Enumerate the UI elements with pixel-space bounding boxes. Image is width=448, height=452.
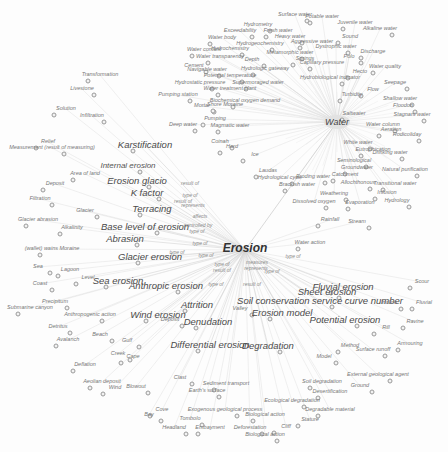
node-label[interactable]: Eroding water	[296, 174, 330, 180]
node-label[interactable]: Anthropic erosion	[129, 281, 203, 291]
node-label[interactable]: Natural purification	[382, 167, 428, 173]
graph-node[interactable]	[62, 152, 67, 157]
graph-node[interactable]	[86, 79, 91, 84]
node-label[interactable]: Soil conservation service curve number	[237, 296, 403, 306]
graph-node[interactable]	[190, 382, 195, 387]
graph-node[interactable]	[371, 71, 376, 76]
graph-node[interactable]	[399, 307, 404, 312]
graph-node[interactable]	[136, 261, 141, 266]
node-label[interactable]: External geological agent	[347, 372, 409, 378]
node-label[interactable]: Floodon	[393, 103, 413, 109]
node-label[interactable]: Flow	[367, 87, 379, 93]
graph-node[interactable]	[408, 286, 413, 291]
node-label[interactable]: Gulf	[122, 338, 132, 344]
node-label[interactable]: Rainfall	[321, 217, 339, 223]
node-label[interactable]: Pumping	[204, 116, 226, 122]
graph-node[interactable]	[54, 344, 59, 349]
node-label[interactable]: Laudas	[259, 168, 277, 174]
graph-node[interactable]	[323, 181, 328, 186]
graph-node[interactable]	[400, 157, 405, 162]
node-label[interactable]: Glacier abrasion	[18, 217, 58, 223]
node-label[interactable]: Incline	[381, 300, 397, 306]
graph-node[interactable]	[336, 350, 341, 355]
graph-node[interactable]	[119, 361, 124, 366]
graph-node[interactable]	[211, 109, 216, 114]
node-label[interactable]: Water action	[295, 240, 326, 246]
node-label[interactable]: Allochthonous	[341, 180, 376, 186]
graph-node[interactable]	[216, 130, 221, 135]
node-label[interactable]: Brackish water	[279, 182, 315, 188]
node-label[interactable]: Coast	[33, 281, 47, 287]
graph-node[interactable]	[390, 33, 395, 38]
graph-node[interactable]	[417, 139, 422, 144]
node-label[interactable]: Deposit	[46, 181, 65, 187]
graph-node[interactable]	[201, 123, 206, 128]
node-label[interactable]: Dissolved oxygen	[292, 199, 335, 205]
node-label[interactable]: Infusion	[377, 190, 396, 196]
node-label[interactable]: Water treatment plant	[204, 86, 257, 92]
graph-node[interactable]	[110, 339, 115, 344]
node-label[interactable]: Groundwater	[341, 165, 373, 171]
graph-node[interactable]	[396, 348, 401, 353]
graph-node[interactable]	[56, 274, 61, 279]
node-label[interactable]: Scour	[415, 279, 429, 285]
graph-node[interactable]	[422, 119, 427, 124]
node-label[interactable]: Degradable material	[305, 407, 355, 413]
node-label[interactable]: Deflation	[74, 362, 96, 368]
graph-node[interactable]	[334, 361, 339, 366]
graph-node[interactable]	[155, 231, 160, 236]
node-label[interactable]: Soil degradation	[302, 379, 342, 385]
node-label[interactable]: Filtration	[29, 196, 50, 202]
graph-node[interactable]	[316, 224, 321, 229]
graph-node[interactable]	[50, 203, 55, 208]
node-label[interactable]: Detritus	[49, 324, 68, 330]
graph-node[interactable]	[180, 324, 185, 329]
graph-node[interactable]	[283, 189, 288, 194]
node-label[interactable]: Beach	[92, 332, 108, 338]
graph-node[interactable]	[102, 120, 107, 125]
graph-node[interactable]	[407, 205, 412, 210]
node-label[interactable]: Seepage	[384, 80, 406, 86]
node-label[interactable]: Sediment transport	[203, 381, 249, 387]
graph-node[interactable]	[194, 326, 199, 331]
graph-node[interactable]	[144, 319, 149, 324]
node-label[interactable]: Shallow water	[383, 96, 417, 102]
graph-node[interactable]	[137, 345, 142, 350]
node-label[interactable]: Denudation	[184, 317, 233, 327]
node-label[interactable]: Internal erosion	[100, 162, 155, 170]
node-label[interactable]: Anthropogenic action	[64, 312, 116, 318]
node-label[interactable]: Dystrophic water	[316, 44, 357, 50]
node-label[interactable]: (wallet) wains Moraine	[25, 246, 80, 252]
node-label[interactable]: Hydrology	[385, 198, 410, 204]
node-label[interactable]: Cove	[156, 407, 169, 413]
graph-node[interactable]	[296, 247, 301, 252]
graph-node[interactable]	[217, 395, 222, 400]
node-label[interactable]: Model	[317, 354, 332, 360]
node-label[interactable]: Infiltration	[80, 113, 104, 119]
graph-node[interactable]	[331, 179, 336, 184]
node-label[interactable]: Measurement (result of measuring)	[9, 145, 95, 151]
node-label[interactable]: White water	[343, 140, 372, 146]
node-label[interactable]: Hydrologic gateway	[241, 66, 289, 72]
graph-node[interactable]	[71, 369, 76, 374]
graph-node[interactable]	[138, 213, 143, 218]
node-label[interactable]: Cliff	[281, 424, 290, 430]
node-label[interactable]: Valley	[233, 306, 248, 312]
graph-node[interactable]	[41, 188, 46, 193]
graph-node[interactable]	[383, 354, 388, 359]
node-label[interactable]: Stagnant water	[394, 112, 431, 118]
node-label[interactable]: Tombolo	[180, 416, 201, 422]
graph-node[interactable]	[346, 207, 351, 212]
graph-node[interactable]	[38, 253, 43, 258]
node-label[interactable]: Depth	[245, 57, 260, 63]
graph-node[interactable]	[291, 63, 296, 68]
node-label[interactable]: Potential erosion	[310, 315, 381, 325]
node-label[interactable]: Creek	[111, 351, 126, 357]
graph-node[interactable]	[71, 178, 76, 183]
graph-node[interactable]	[196, 349, 201, 354]
node-label[interactable]: Deforestation	[234, 425, 267, 431]
graph-node[interactable]	[372, 332, 377, 337]
node-label[interactable]: Biological action	[245, 432, 285, 438]
node-label[interactable]: Headland	[162, 425, 186, 431]
graph-node[interactable]	[355, 324, 360, 329]
